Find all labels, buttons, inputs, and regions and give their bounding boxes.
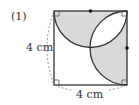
problem-number: (1) — [11, 10, 27, 23]
top-midpoint-dot — [89, 9, 93, 13]
left-side-label: 4 cm — [26, 41, 54, 54]
bottom-side-label: 4 cm — [76, 88, 104, 101]
geometry-figure: (1) 4 cm 4 cm — [0, 0, 139, 105]
right-midpoint-dot — [125, 46, 129, 50]
